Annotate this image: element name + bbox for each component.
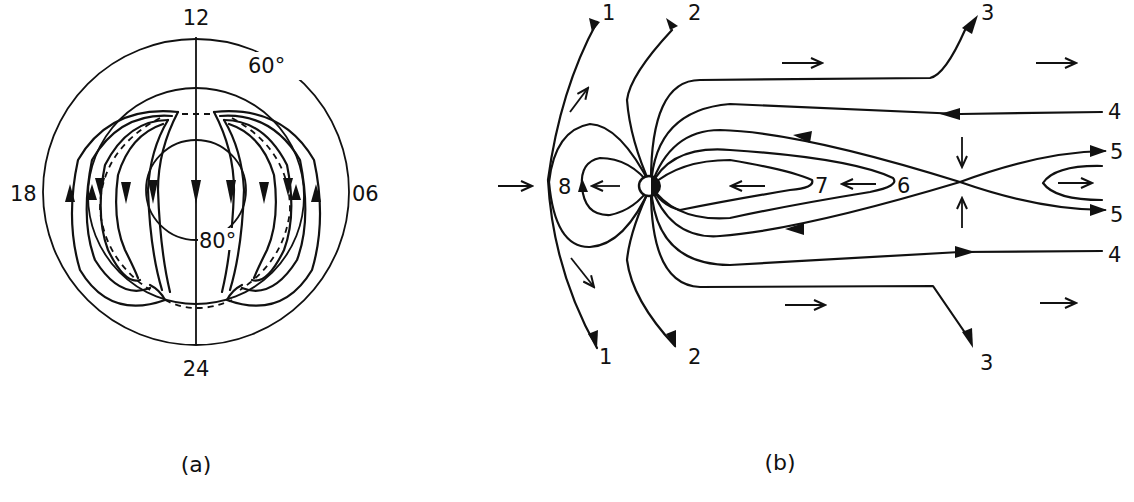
field-line-4-bottom xyxy=(651,186,1102,265)
line-label-1-bottom: 1 xyxy=(599,345,612,369)
field-line-3-bottom xyxy=(651,186,970,340)
flow-arrow-icon xyxy=(570,88,588,112)
up-arrow-icon xyxy=(291,184,301,200)
mlt-label-06: 06 xyxy=(352,182,379,206)
field-line-5-lower-to-upper xyxy=(651,151,1105,236)
line-label-6: 6 xyxy=(897,174,910,198)
mlt-label-24: 24 xyxy=(183,357,210,381)
panel-a-polar-convection: 12 24 18 06 60° 80° (a) xyxy=(10,6,379,477)
line-label-5-bottom: 5 xyxy=(1110,203,1123,227)
line-label-8: 8 xyxy=(558,175,571,199)
line-label-3-top: 3 xyxy=(981,1,994,25)
dashed-boundary-dusk xyxy=(100,118,160,290)
line-label-3-bottom: 3 xyxy=(980,351,993,375)
line-label-4-bottom: 4 xyxy=(1108,243,1121,267)
line-label-7: 7 xyxy=(815,174,828,198)
field-line-1 xyxy=(548,22,597,348)
arrowhead-icon xyxy=(940,108,960,120)
arrowhead-icon xyxy=(955,246,975,258)
arrowhead-icon xyxy=(578,178,588,192)
line-label-5-top: 5 xyxy=(1110,140,1123,164)
latitude-label-60: 60° xyxy=(248,54,285,78)
down-arrow-icon xyxy=(121,182,131,204)
line-label-4-top: 4 xyxy=(1108,100,1121,124)
arrowhead-icon xyxy=(666,18,678,30)
field-line-5-upper-to-lower xyxy=(651,130,1105,210)
flow-arrowheads xyxy=(65,178,321,204)
figure-canvas: 12 24 18 06 60° 80° (a) xyxy=(0,0,1134,502)
arrowhead-icon xyxy=(1090,204,1107,216)
field-line-4-top xyxy=(651,104,1102,186)
mlt-label-12: 12 xyxy=(183,6,210,30)
line-label-2-top: 2 xyxy=(688,1,701,25)
caption-b: (b) xyxy=(764,450,795,475)
field-line-7 xyxy=(651,160,812,210)
caption-a: (a) xyxy=(181,452,212,477)
down-arrow-icon xyxy=(191,180,201,204)
down-arrow-icon xyxy=(95,178,105,196)
panel-b-magnetosphere: 1 1 2 2 3 3 4 4 5 5 6 7 8 (b) xyxy=(498,1,1123,475)
arrowhead-icon xyxy=(589,18,600,32)
line-label-1-top: 1 xyxy=(602,1,615,25)
flow-arrow-icon xyxy=(571,258,594,287)
line-label-2-bottom: 2 xyxy=(688,345,701,369)
mlt-label-18: 18 xyxy=(10,182,37,206)
latitude-label-80: 80° xyxy=(199,229,236,253)
down-arrow-icon xyxy=(259,182,269,204)
arrowhead-icon xyxy=(1090,145,1107,157)
plasma-flow-arrows xyxy=(498,63,1092,305)
